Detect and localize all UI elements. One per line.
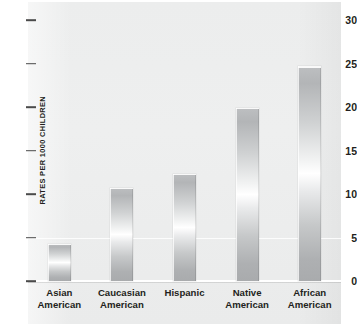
y-axis-title: RATES PER 1000 CHILDREN (38, 96, 47, 205)
x-category-label-line: Hispanic (153, 287, 216, 299)
y-tick-mark (26, 19, 36, 21)
y-tick-label: 0 (335, 276, 357, 286)
y-tick-label: 20 (335, 102, 357, 112)
x-category-label-line: Asian (28, 287, 91, 299)
y-tick-label: 30 (335, 15, 357, 25)
bar-cap (48, 244, 71, 246)
bar-chart: 302520151050 AsianAmericanCaucasianAmeri… (0, 0, 357, 329)
x-category-label-line: American (278, 299, 341, 311)
x-category-label-line: American (216, 299, 279, 311)
y-tick-mark (26, 193, 36, 195)
y-tick-label: 5 (335, 233, 357, 243)
x-category-label-line: Native (216, 287, 279, 299)
y-tick-mark (26, 280, 36, 282)
x-category-label-line: American (91, 299, 154, 311)
y-tick-label: 10 (335, 189, 357, 199)
x-category-label-line: Caucasian (91, 287, 154, 299)
bar (173, 174, 196, 281)
bar-cap (173, 174, 196, 176)
bar-cap (110, 188, 133, 190)
y-tick-mark (26, 106, 36, 108)
y-tick-label: 15 (335, 146, 357, 156)
x-category-label: CaucasianAmerican (91, 287, 154, 310)
bar-cap (298, 66, 321, 68)
x-category-label: AsianAmerican (28, 287, 91, 310)
bar (110, 188, 133, 281)
x-category-label: AfricanAmerican (278, 287, 341, 310)
bar (48, 244, 71, 281)
y-tick-mark (26, 150, 36, 152)
bar-cap (236, 108, 259, 110)
x-category-label: NativeAmerican (216, 287, 279, 310)
x-category-label-line: African (278, 287, 341, 299)
y-tick-mark (26, 63, 36, 65)
y-tick-mark (26, 237, 36, 239)
bar (236, 108, 259, 281)
y-tick-label: 25 (335, 59, 357, 69)
x-category-label: Hispanic (153, 287, 216, 299)
x-category-label-line: American (28, 299, 91, 311)
bar (298, 66, 321, 281)
